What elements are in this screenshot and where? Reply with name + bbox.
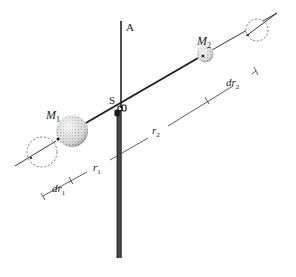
label-axis-a: A bbox=[126, 21, 134, 33]
label-mass1: M1 bbox=[45, 108, 60, 124]
label-r1: r1 bbox=[93, 161, 101, 176]
suspension-rod bbox=[117, 21, 122, 258]
label-mass2: M2 bbox=[196, 34, 211, 50]
displaced-mass1-circle bbox=[27, 137, 57, 167]
dr1-end-tick bbox=[41, 193, 45, 200]
mass1-sphere bbox=[56, 115, 88, 147]
dr2-end-tick bbox=[254, 67, 258, 75]
displaced-mass2-dot bbox=[247, 34, 249, 36]
displaced-mass1-dot bbox=[30, 157, 32, 159]
dr1-tick bbox=[69, 177, 73, 184]
label-r2: r2 bbox=[152, 124, 160, 139]
label-pivot-s: S bbox=[109, 94, 115, 106]
torsion-balance-diagram: A S M1 M2 r1 r2 dr1 dr2 bbox=[0, 0, 296, 277]
